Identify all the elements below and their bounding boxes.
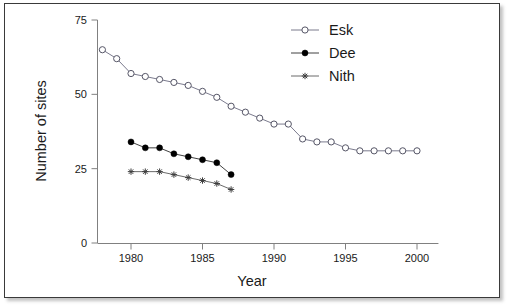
legend-label-nith: Nith bbox=[329, 68, 355, 84]
data-point-filled-circle bbox=[185, 154, 191, 160]
data-point-filled-circle bbox=[200, 157, 206, 163]
data-point-filled-circle bbox=[157, 145, 163, 151]
data-point-star bbox=[142, 168, 148, 174]
legend-marker-open-circle bbox=[302, 27, 308, 33]
data-point-open-circle bbox=[142, 73, 148, 79]
data-point-open-circle bbox=[357, 148, 363, 154]
data-point-open-circle bbox=[157, 76, 163, 82]
data-point-open-circle bbox=[371, 148, 377, 154]
series-line-nith bbox=[131, 172, 231, 190]
data-point-open-circle bbox=[171, 79, 177, 85]
data-point-open-circle bbox=[128, 70, 134, 76]
line-chart: 025507519801985199019952000YearNumber of… bbox=[0, 0, 509, 308]
data-point-open-circle bbox=[314, 139, 320, 145]
data-point-star bbox=[199, 177, 205, 183]
y-tick-label: 25 bbox=[75, 163, 87, 175]
data-point-open-circle bbox=[199, 88, 205, 94]
data-point-open-circle bbox=[242, 109, 248, 115]
x-tick-label: 2000 bbox=[405, 252, 429, 264]
data-point-open-circle bbox=[385, 148, 391, 154]
data-point-open-circle bbox=[400, 148, 406, 154]
x-tick-label: 1980 bbox=[119, 252, 143, 264]
data-point-star bbox=[156, 168, 162, 174]
data-point-star bbox=[128, 168, 134, 174]
data-point-open-circle bbox=[214, 94, 220, 100]
data-point-filled-circle bbox=[142, 145, 148, 151]
data-point-open-circle bbox=[342, 145, 348, 151]
data-point-star bbox=[302, 73, 308, 79]
data-point-star bbox=[185, 174, 191, 180]
data-point-open-circle bbox=[99, 47, 105, 53]
y-axis-title: Number of sites bbox=[33, 80, 49, 182]
legend-marker-filled-circle bbox=[302, 50, 308, 56]
data-point-open-circle bbox=[257, 115, 263, 121]
data-point-star bbox=[228, 186, 234, 192]
data-point-open-circle bbox=[414, 148, 420, 154]
data-point-open-circle bbox=[228, 103, 234, 109]
data-point-star bbox=[171, 171, 177, 177]
data-point-open-circle bbox=[300, 136, 306, 142]
data-point-star bbox=[214, 180, 220, 186]
x-axis-title: Year bbox=[237, 273, 266, 289]
x-tick-label: 1990 bbox=[262, 252, 286, 264]
series-line-esk bbox=[102, 50, 417, 151]
x-tick-label: 1985 bbox=[190, 252, 214, 264]
y-tick-label: 0 bbox=[81, 237, 87, 249]
x-tick-label: 1995 bbox=[333, 252, 357, 264]
data-point-filled-circle bbox=[214, 160, 220, 166]
data-point-open-circle bbox=[285, 121, 291, 127]
data-point-open-circle bbox=[271, 121, 277, 127]
data-point-filled-circle bbox=[128, 139, 134, 145]
data-point-open-circle bbox=[114, 56, 120, 62]
y-tick-label: 75 bbox=[75, 14, 87, 26]
data-point-filled-circle bbox=[171, 151, 177, 157]
data-point-open-circle bbox=[328, 139, 334, 145]
chart-figure: 025507519801985199019952000YearNumber of… bbox=[0, 0, 509, 308]
y-tick-label: 50 bbox=[75, 88, 87, 100]
legend-label-dee: Dee bbox=[329, 45, 356, 61]
data-point-filled-circle bbox=[228, 172, 234, 178]
data-point-open-circle bbox=[185, 82, 191, 88]
legend-label-esk: Esk bbox=[329, 22, 354, 38]
